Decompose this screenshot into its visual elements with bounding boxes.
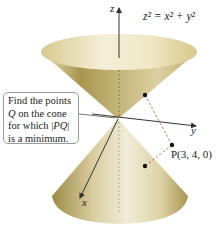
callout-line-3: for which |PQ| bbox=[8, 120, 78, 133]
z-axis-label: z bbox=[110, 2, 114, 14]
callout-line-1: Find the points bbox=[8, 95, 78, 108]
callout-line-2: Q on the cone bbox=[8, 108, 78, 121]
point-q-upper bbox=[143, 93, 147, 97]
callout-box: Find the points Q on the cone for which … bbox=[3, 92, 79, 144]
dashed-line-upper bbox=[145, 95, 172, 145]
point-q-lower bbox=[143, 164, 147, 168]
point-p bbox=[170, 143, 174, 147]
y-axis bbox=[92, 114, 196, 126]
callout-line-4: is a minimum. bbox=[8, 133, 78, 146]
equation-label: z² = x² + y² bbox=[143, 10, 195, 22]
x-axis-label: x bbox=[82, 196, 87, 208]
point-p-label: P(3, 4, 0) bbox=[171, 148, 212, 160]
y-axis-label: y bbox=[191, 124, 196, 136]
